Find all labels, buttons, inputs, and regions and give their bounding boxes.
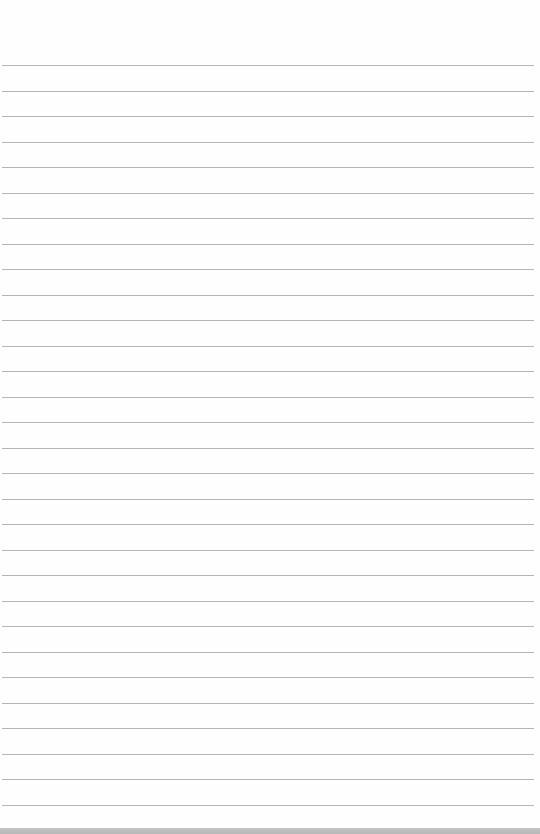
- ruled-line: [2, 779, 534, 780]
- ruled-line: [2, 244, 534, 245]
- ruled-line: [2, 703, 534, 704]
- ruled-line: [2, 346, 534, 347]
- ruled-line: [2, 167, 534, 168]
- ruled-line: [2, 65, 534, 66]
- ruled-line: [2, 397, 534, 398]
- ruled-line: [2, 524, 534, 525]
- ruled-line: [2, 116, 534, 117]
- ruled-line: [2, 320, 534, 321]
- ruled-line: [2, 754, 534, 755]
- paper-bottom-edge: [0, 828, 540, 834]
- ruled-line: [2, 422, 534, 423]
- ruled-line: [2, 652, 534, 653]
- ruled-line: [2, 626, 534, 627]
- ruled-line: [2, 473, 534, 474]
- ruled-line: [2, 142, 534, 143]
- ruled-line: [2, 371, 534, 372]
- ruled-line: [2, 677, 534, 678]
- ruled-line: [2, 295, 534, 296]
- ruled-line: [2, 550, 534, 551]
- ruled-line: [2, 805, 534, 806]
- ruled-line: [2, 269, 534, 270]
- ruled-line: [2, 728, 534, 729]
- ruled-line: [2, 575, 534, 576]
- ruled-line: [2, 193, 534, 194]
- ruled-paper-page: [0, 0, 540, 828]
- ruled-line: [2, 218, 534, 219]
- ruled-line: [2, 448, 534, 449]
- ruled-line: [2, 91, 534, 92]
- ruled-line: [2, 499, 534, 500]
- ruled-line: [2, 601, 534, 602]
